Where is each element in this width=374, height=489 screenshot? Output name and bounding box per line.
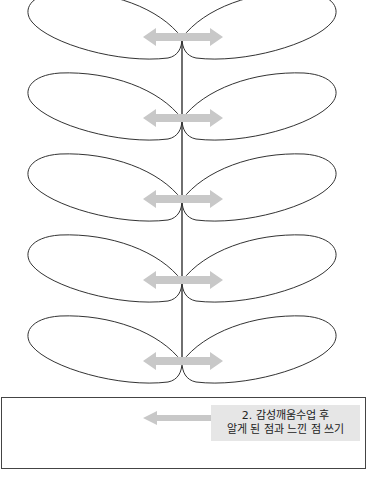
double-arrow-icon-4 [143, 271, 223, 289]
double-arrow-icon-1 [143, 28, 223, 46]
cropped-text-fragment [244, 482, 270, 489]
double-arrow-icon-3 [143, 190, 223, 208]
prompt-label-line2: 알게 된 점과 느낀 점 쓰기 [227, 423, 344, 437]
prompt-label: 2. 감성깨움수업 후 알게 된 점과 느낀 점 쓰기 [211, 405, 360, 441]
double-arrow-icon-2 [143, 109, 223, 127]
left-arrow-icon [143, 411, 213, 425]
prompt-label-line1: 2. 감성깨움수업 후 [242, 409, 330, 423]
double-arrow-icon-5 [143, 352, 223, 370]
